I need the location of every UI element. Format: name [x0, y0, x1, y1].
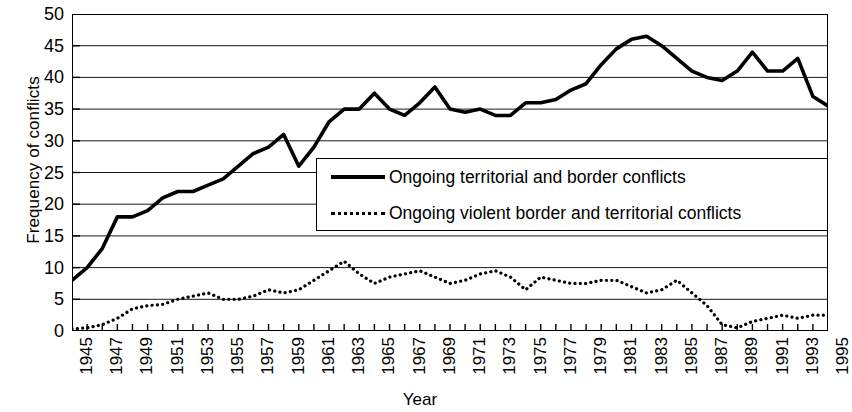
x-axis-tick-label: 1959: [290, 337, 307, 375]
y-axis-tick-label: 45: [20, 37, 64, 55]
x-axis-tick-label: 1983: [653, 337, 670, 375]
y-axis-tick-label: 35: [20, 100, 64, 118]
x-axis-tick-label: 1987: [713, 337, 730, 375]
x-axis-tick-label: 1963: [350, 337, 367, 375]
x-axis-tick-label: 1967: [411, 337, 428, 375]
legend-label-dotted: Ongoing violent border and territorial c…: [389, 203, 741, 224]
y-axis-tick-label: 40: [20, 68, 64, 86]
x-axis-tick-label: 1961: [320, 337, 337, 375]
x-axis-tick-label: 1989: [743, 337, 760, 375]
x-axis-tick-label: 1949: [138, 337, 155, 375]
legend-label-solid: Ongoing territorial and border conflicts: [389, 167, 686, 188]
y-axis-tick-label: 10: [20, 259, 64, 277]
y-axis-tick-label: 0: [20, 322, 64, 340]
y-axis-tick-label: 20: [20, 195, 64, 213]
x-axis-tick-label: 1955: [229, 337, 246, 375]
chart-legend: Ongoing territorial and border conflicts…: [316, 158, 828, 231]
x-axis-tick-label: 1971: [471, 337, 488, 375]
x-axis-tick-label: 1991: [774, 337, 791, 375]
y-axis-tick-label: 5: [20, 290, 64, 308]
x-axis-tick-label: 1957: [259, 337, 276, 375]
x-axis-tick-label: 1985: [683, 337, 700, 375]
x-axis-tick-label: 1965: [380, 337, 397, 375]
x-axis-tick-label: 1993: [804, 337, 821, 375]
x-axis-tick-label: 1969: [441, 337, 458, 375]
y-axis-tick-label: 25: [20, 164, 64, 182]
x-axis-tick-label: 1979: [592, 337, 609, 375]
x-axis-tick-label: 1951: [169, 337, 186, 375]
x-axis-tick-label: 1945: [78, 337, 95, 375]
y-axis-tick-label: 30: [20, 132, 64, 150]
x-axis-tick-label: 1973: [501, 337, 518, 375]
legend-item-dotted: Ongoing violent border and territorial c…: [317, 195, 827, 231]
y-axis-tick-label: 15: [20, 227, 64, 245]
x-axis-tick-label: 1975: [532, 337, 549, 375]
x-axis-label: Year: [0, 390, 840, 410]
legend-item-solid: Ongoing territorial and border conflicts: [317, 159, 827, 195]
x-axis-tick-label: 1981: [622, 337, 639, 375]
dotted-line-key-icon: [327, 206, 389, 220]
x-axis-tick-label: 1947: [108, 337, 125, 375]
y-axis-tick-label: 50: [20, 5, 64, 23]
x-axis-tick-label: 1953: [199, 337, 216, 375]
solid-line-key-icon: [327, 170, 389, 184]
x-axis-tick-label: 1977: [562, 337, 579, 375]
x-axis-tick-label: 1995: [834, 337, 851, 375]
